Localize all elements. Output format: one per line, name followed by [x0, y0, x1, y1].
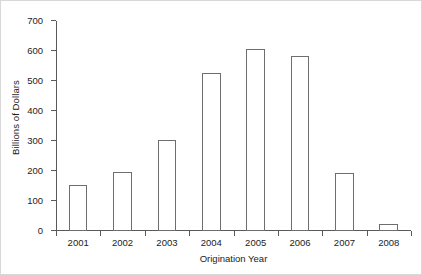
x-tick-label: 2001: [68, 237, 89, 248]
bar: [158, 140, 177, 231]
bar: [246, 49, 265, 231]
y-tick-label: 400: [13, 105, 43, 116]
y-tick-label: 500: [13, 75, 43, 86]
y-tick: 600: [51, 50, 56, 51]
x-tick: [411, 231, 412, 236]
y-axis-line: [56, 21, 57, 231]
x-tick-label: 2006: [289, 237, 310, 248]
bar: [379, 224, 398, 232]
x-tick: [234, 231, 235, 236]
y-tick-label: 600: [13, 45, 43, 56]
x-tick-label: 2002: [112, 237, 133, 248]
x-tick: [278, 231, 279, 236]
y-tick-label: 300: [13, 135, 43, 146]
x-tick: [56, 231, 57, 236]
y-tick: 500: [51, 80, 56, 81]
x-tick: [145, 231, 146, 236]
bar: [69, 185, 88, 232]
y-tick: 400: [51, 110, 56, 111]
y-tick: 200: [51, 170, 56, 171]
y-tick-label: 0: [13, 225, 43, 236]
x-tick: [367, 231, 368, 236]
y-tick: 300: [51, 140, 56, 141]
x-tick: [189, 231, 190, 236]
bar: [202, 73, 221, 231]
bar: [291, 56, 310, 232]
y-tick-label: 100: [13, 195, 43, 206]
bar: [335, 173, 354, 231]
x-axis-title: Origination Year: [56, 253, 411, 264]
x-tick-label: 2008: [378, 237, 399, 248]
x-tick-label: 2003: [156, 237, 177, 248]
x-tick: [322, 231, 323, 236]
plot-area: 0100200300400500600700 20012002200320042…: [56, 21, 411, 231]
x-tick-label: 2004: [201, 237, 222, 248]
x-tick: [100, 231, 101, 236]
y-tick: 700: [51, 20, 56, 21]
bar-chart-figure: Billions of Dollars 01002003004005006007…: [0, 0, 422, 275]
y-tick-label: 200: [13, 165, 43, 176]
bar: [113, 172, 132, 231]
y-tick: 100: [51, 200, 56, 201]
y-tick-label: 700: [13, 15, 43, 26]
x-tick-label: 2007: [334, 237, 355, 248]
x-tick-label: 2005: [245, 237, 266, 248]
